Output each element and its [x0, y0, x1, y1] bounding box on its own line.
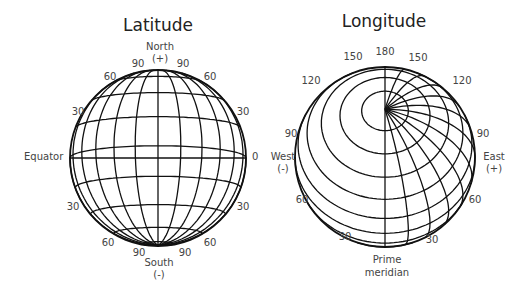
- north-label: North: [146, 41, 174, 52]
- east-label: East: [483, 151, 505, 162]
- meridian-line: [385, 69, 405, 109]
- equator-value: 0: [252, 151, 258, 162]
- lat-label-left-90-north: 90: [132, 58, 145, 69]
- lon-label-left-150: 150: [343, 51, 362, 62]
- lon-label-right-60: 60: [469, 194, 482, 205]
- prime-meridian-label-line2: meridian: [365, 267, 409, 278]
- west-sign: (-): [277, 163, 289, 174]
- longitude-globe: [295, 67, 475, 247]
- meridian-line: [158, 81, 243, 245]
- lat-label-right-90-north: 90: [177, 58, 190, 69]
- north-sign: (+): [152, 53, 168, 64]
- east-sign: (+): [486, 163, 502, 174]
- lon-label-left-90: 90: [285, 128, 298, 139]
- lat-label-left-90-south: 90: [133, 247, 146, 258]
- longitude-diagram: Longitude 180 150 120 90 60 30 150 120 9…: [271, 11, 505, 278]
- lon-label-right-150: 150: [408, 52, 427, 63]
- latitude-diagram: Latitude North (+) 90 60 30 30 60 90 90 …: [24, 15, 258, 280]
- south-sign: (-): [153, 269, 165, 280]
- latitude-globe: [70, 70, 246, 246]
- lat-label-left-30-north: 30: [72, 106, 85, 117]
- lon-label-right-30: 30: [426, 234, 439, 245]
- lon-label-180: 180: [375, 46, 394, 57]
- latitude-title: Latitude: [123, 15, 193, 35]
- lat-label-right-60-south: 60: [204, 237, 217, 248]
- south-label: South: [144, 257, 173, 268]
- lat-label-right-90-south: 90: [179, 247, 192, 258]
- coordinate-diagram: Latitude North (+) 90 60 30 30 60 90 90 …: [0, 0, 527, 290]
- lon-label-left-30: 30: [339, 231, 352, 242]
- lon-label-right-90: 90: [477, 128, 490, 139]
- lon-label-left-60: 60: [296, 194, 309, 205]
- lon-label-right-120: 120: [452, 75, 471, 86]
- equator-label: Equator: [24, 151, 64, 162]
- meridian-line: [385, 109, 449, 224]
- lat-label-left-60-south: 60: [102, 237, 115, 248]
- west-label: West: [271, 151, 296, 162]
- lat-label-left-60-north: 60: [104, 71, 117, 82]
- lat-label-right-30-north: 30: [237, 106, 250, 117]
- lat-label-right-30-south: 30: [237, 201, 250, 212]
- lat-label-left-30-south: 30: [67, 201, 80, 212]
- prime-meridian-label-line1: Prime: [373, 254, 402, 265]
- lat-label-right-60-north: 60: [204, 71, 217, 82]
- longitude-title: Longitude: [342, 11, 427, 31]
- meridian-line: [73, 81, 158, 245]
- lon-label-left-120: 120: [301, 75, 320, 86]
